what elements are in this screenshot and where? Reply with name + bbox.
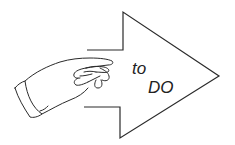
todo-label-to: to bbox=[132, 60, 146, 77]
arrow-outline bbox=[84, 12, 219, 138]
pointing-hand-icon bbox=[15, 58, 113, 117]
todo-clipart: to DO bbox=[0, 0, 235, 145]
arrow-icon bbox=[0, 0, 235, 145]
todo-label-do: DO bbox=[148, 79, 174, 96]
